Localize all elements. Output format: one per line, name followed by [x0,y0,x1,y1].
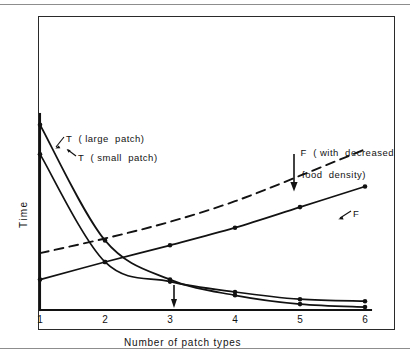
x-tick-3: 3 [162,314,178,325]
data-point [298,297,303,302]
f-leader [340,211,351,218]
t-large-leader-head [55,145,60,148]
data-point [103,260,108,265]
data-point [233,225,238,230]
x3-arrow-head [171,299,177,308]
figure-page: T ( large patch) T ( small patch) F ( wi… [0,0,410,359]
x-tick-2: 2 [97,314,113,325]
data-point [168,243,173,248]
y-axis-title: Time [18,201,29,228]
data-point [38,277,43,282]
x-tick-1: 1 [32,314,48,325]
data-point [363,305,368,310]
t-large-leader [56,137,64,147]
f-decreased-density-label: F ( with decreased food density) [288,136,394,202]
data-point [38,122,43,127]
data-point [168,279,173,284]
data-point [363,299,368,304]
x-tick-4: 4 [227,314,243,325]
f-decreased-density-line1: F ( with decreased [301,147,394,158]
t-large-patch-label: T ( large patch) [66,133,145,144]
x-tick-6: 6 [357,314,373,325]
f-decreased-density-line2: food density) [288,169,394,180]
data-point [298,302,303,307]
x-axis-title: Number of patch types [124,337,241,348]
data-point [38,152,43,157]
t-small-patch-label: T ( small patch) [78,152,158,163]
data-point [233,290,238,295]
x-tick-5: 5 [292,314,308,325]
f-label: F [353,208,359,219]
data-point [298,205,303,210]
